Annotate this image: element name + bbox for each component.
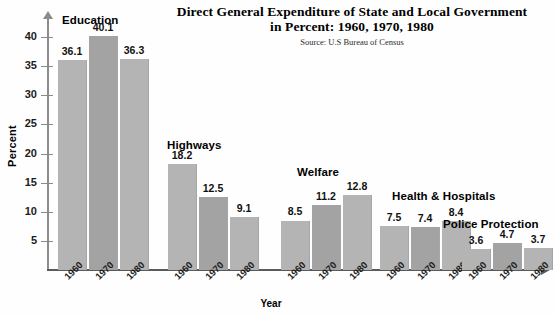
y-axis-tick — [41, 66, 53, 67]
bar-value-label: 4.7 — [490, 229, 524, 240]
y-axis-tick — [41, 124, 53, 125]
y-axis-tick — [41, 241, 53, 242]
bar — [58, 60, 87, 270]
bar — [199, 197, 228, 270]
y-axis-tick — [41, 95, 53, 96]
bar-chart-figure: Direct General Expenditure of State and … — [0, 0, 554, 315]
y-axis-tick — [41, 212, 53, 213]
bar-value-label: 40.1 — [86, 22, 120, 33]
bar-value-label: 9.1 — [227, 203, 261, 214]
y-axis-tick — [41, 183, 53, 184]
bar-value-label: 3.6 — [459, 235, 493, 246]
bar — [168, 164, 197, 270]
bar-value-label: 7.4 — [408, 213, 442, 224]
plot-area: Percent Year 510152025303540 Education36… — [0, 0, 554, 315]
bar — [89, 36, 118, 270]
y-axis-tick-label: 15 — [15, 177, 37, 188]
bar-value-label: 36.3 — [117, 45, 151, 56]
y-axis-tick-label: 40 — [15, 31, 37, 42]
x-axis-title: Year — [236, 298, 306, 309]
y-axis-tick-label: 10 — [15, 206, 37, 217]
y-axis-line — [47, 17, 49, 271]
bar-value-label: 12.5 — [196, 183, 230, 194]
bar — [120, 59, 149, 270]
y-axis-tick-label: 30 — [15, 89, 37, 100]
bar-value-label: 7.5 — [377, 212, 411, 223]
bar-group-label: Health & Hospitals — [392, 190, 495, 202]
bar-value-label: 36.1 — [55, 46, 89, 57]
y-axis-tick — [41, 154, 53, 155]
bar-value-label: 8.4 — [439, 207, 473, 218]
bar-value-label: 3.7 — [521, 234, 554, 245]
bar-group-label: Welfare — [297, 166, 339, 178]
bar-value-label: 8.5 — [278, 206, 312, 217]
bar-value-label: 12.8 — [340, 181, 374, 192]
y-axis-tick-label: 25 — [15, 118, 37, 129]
y-axis-tick-label: 20 — [15, 148, 37, 159]
bar-value-label: 11.2 — [309, 191, 343, 202]
y-axis-tick-label: 35 — [15, 60, 37, 71]
bar — [343, 195, 372, 270]
bar — [312, 205, 341, 270]
bar-value-label: 18.2 — [165, 150, 199, 161]
y-axis-tick — [41, 37, 53, 38]
y-axis-tick-label: 5 — [15, 235, 37, 246]
